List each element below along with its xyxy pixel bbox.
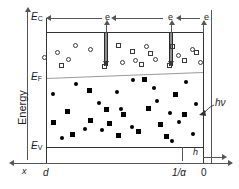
marker-open-square <box>116 43 121 48</box>
level-label-ef: EF <box>31 72 42 82</box>
marker-open-circle <box>144 44 149 49</box>
marker-filled-square <box>65 109 70 114</box>
level-label-ev: EV <box>31 141 42 151</box>
electron-flow-line-3 <box>180 18 200 19</box>
marker-filled-circle <box>170 139 174 143</box>
marker-open-circle <box>120 60 125 65</box>
x-axis-label: x <box>22 167 27 176</box>
x-axis-arrowhead-right <box>228 160 233 166</box>
marker-filled-circle <box>83 127 87 131</box>
marker-filled-square <box>158 122 163 127</box>
marker-open-circle <box>55 50 60 55</box>
marker-filled-square <box>70 132 75 137</box>
marker-filled-circle <box>115 90 119 94</box>
depth-arrowhead <box>222 154 227 160</box>
marker-open-circle <box>198 60 203 65</box>
level-symbol-ev: E <box>31 140 38 151</box>
depth-span-line <box>203 157 223 158</box>
depth-label: h <box>193 148 198 157</box>
level-label-ec: EC <box>31 12 43 22</box>
marker-open-square <box>139 62 144 67</box>
x-tick-label-zero: 0 <box>201 168 207 178</box>
electron-flow-line-2 <box>115 18 163 19</box>
x-axis-arrowhead-left <box>9 160 14 166</box>
marker-open-circle <box>176 53 181 58</box>
marker-filled-circle <box>168 111 172 115</box>
marker-open-circle <box>153 57 158 62</box>
marker-filled-square <box>136 129 141 134</box>
marker-open-square <box>59 63 64 68</box>
marker-filled-square <box>146 106 151 111</box>
marker-open-square <box>148 51 153 56</box>
boundary-line-inv-alpha <box>182 147 183 161</box>
marker-filled-circle <box>51 92 55 96</box>
marker-open-circle <box>73 43 78 48</box>
electron-flow-arrowhead-1 <box>46 15 51 21</box>
marker-filled-circle <box>131 78 135 82</box>
marker-filled-circle <box>130 125 134 129</box>
boundary-line-zero <box>203 18 204 163</box>
feed-arrowhead-2 <box>169 20 175 25</box>
photon-label: hν <box>215 98 226 108</box>
x-tick-label-d: d <box>43 168 49 178</box>
marker-filled-square <box>121 112 126 117</box>
level-subscript-ev: V <box>38 144 43 151</box>
electron-flow-line-1 <box>50 18 102 19</box>
marker-filled-square <box>182 112 187 117</box>
feed-arrowhead-1 <box>104 20 110 25</box>
marker-filled-square <box>164 134 169 139</box>
marker-open-square <box>167 63 172 68</box>
marker-open-square <box>130 49 135 54</box>
marker-filled-square <box>142 77 147 82</box>
marker-filled-square <box>173 92 178 97</box>
marker-filled-circle <box>97 101 101 105</box>
marker-open-circle <box>66 57 71 62</box>
level-subscript-ef: F <box>38 75 42 82</box>
marker-open-square <box>102 64 107 69</box>
marker-filled-circle <box>177 120 181 124</box>
electron-flow-arrowhead-2 <box>111 15 116 21</box>
electron-flow-arrowhead-3 <box>176 15 181 21</box>
marker-open-circle <box>133 58 138 63</box>
x-axis-line <box>14 163 232 164</box>
boundary-line-d <box>46 18 47 163</box>
marker-filled-square <box>107 121 112 126</box>
marker-filled-square <box>104 107 109 112</box>
marker-filled-circle <box>155 99 159 103</box>
marker-open-circle <box>88 47 93 52</box>
marker-filled-circle <box>119 107 123 111</box>
marker-filled-circle <box>194 102 198 106</box>
marker-filled-square <box>51 120 56 125</box>
outer-right-edge <box>211 10 212 163</box>
marker-filled-square <box>87 88 92 93</box>
feed-arrowhead-3 <box>201 20 207 25</box>
marker-filled-circle <box>60 136 64 140</box>
marker-filled-square <box>116 133 121 138</box>
band-diagram-figure: Energy x EC EF EV e e e <box>0 0 239 189</box>
marker-filled-circle <box>152 86 156 90</box>
marker-open-square <box>182 58 187 63</box>
fermi-level-line <box>46 72 203 79</box>
conduction-band-edge <box>46 32 203 33</box>
marker-filled-circle <box>191 132 195 136</box>
level-symbol-ec: E <box>31 11 38 22</box>
marker-filled-circle <box>184 80 188 84</box>
marker-open-square <box>194 50 199 55</box>
marker-filled-circle <box>74 82 78 86</box>
marker-open-square <box>170 44 175 49</box>
marker-filled-circle <box>100 128 104 132</box>
valence-band-edge <box>46 147 203 148</box>
level-subscript-ec: C <box>38 15 43 22</box>
marker-filled-square <box>88 118 93 123</box>
x-tick-label-inv-alpha: 1/α <box>172 168 186 178</box>
level-symbol-ef: E <box>31 71 38 82</box>
marker-open-circle <box>42 55 47 60</box>
hv-leader-line <box>204 105 214 113</box>
y-axis-label: Energy <box>16 90 28 125</box>
y-axis-line <box>27 12 28 160</box>
